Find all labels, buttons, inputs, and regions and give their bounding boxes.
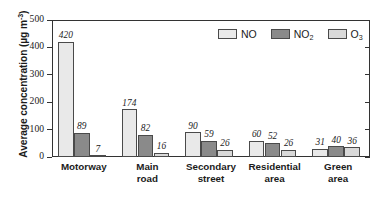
y-tick-label: 400 [12, 40, 44, 51]
bar-o3 [90, 155, 106, 157]
bar-value-label: 174 [115, 98, 145, 108]
bar-value-label: 7 [83, 144, 113, 154]
legend-swatch-icon [328, 29, 347, 39]
bar-no [58, 42, 74, 157]
bar-groups: 4208971748216905926605226314036 [52, 20, 370, 157]
bar-group: 1748216 [122, 20, 170, 157]
bar-value-label: 26 [210, 138, 240, 148]
y-tick-label: 100 [12, 123, 44, 134]
x-axis-label: Greenarea [300, 161, 376, 184]
bar-chart: Average concentration (µg m-3) 010020030… [0, 0, 383, 202]
bar-value-label: 36 [337, 136, 367, 146]
bar-value-label: 82 [131, 123, 161, 133]
legend-label: O3 [351, 28, 363, 40]
bar-o3 [217, 150, 233, 157]
y-tick-label: 200 [12, 95, 44, 106]
chart-legend: NONO2O3 [218, 28, 363, 40]
bar-group: 420897 [58, 20, 106, 157]
bar-value-label: 89 [67, 121, 97, 131]
legend-item-o3: O3 [328, 28, 363, 40]
bar-no [122, 109, 138, 157]
bar-no [312, 149, 328, 157]
legend-item-no2: NO2 [271, 28, 314, 40]
bar-o3 [154, 153, 170, 157]
y-tick-label: 500 [12, 13, 44, 24]
bar-value-label: 16 [147, 141, 177, 151]
bar-group: 605226 [249, 20, 297, 157]
bar-o3 [281, 150, 297, 157]
y-tick-label: 0 [12, 150, 44, 161]
x-axis-label-line: area [300, 173, 376, 185]
legend-label-subscript: 2 [310, 33, 314, 42]
bar-value-label: 26 [274, 138, 304, 148]
y-axis-title: Average concentration (µg m-3) [17, 0, 29, 169]
bar-o3 [344, 147, 360, 157]
bar-value-label: 420 [51, 30, 81, 40]
bar-no2 [328, 146, 344, 157]
bar-group: 905926 [185, 20, 233, 157]
legend-label: NO [241, 28, 257, 40]
legend-swatch-icon [271, 29, 290, 39]
x-axis-label-line: Green [300, 161, 376, 173]
bar-no [249, 141, 265, 157]
legend-swatch-icon [218, 29, 237, 39]
legend-item-no: NO [218, 28, 257, 40]
legend-label-subscript: 3 [359, 33, 363, 42]
y-tick-label: 300 [12, 68, 44, 79]
legend-label: NO2 [294, 28, 314, 40]
bar-group: 314036 [312, 20, 360, 157]
